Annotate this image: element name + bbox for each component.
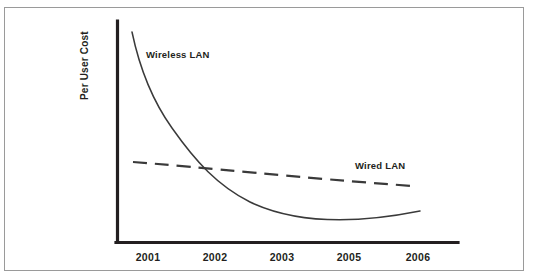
series-line-wireless-lan [132,32,420,220]
chart-figure: Per User Cost Wireless LAN Wired LAN 200… [0,0,534,279]
x-tick-label-2001: 2001 [128,251,168,263]
series-label-wireless-lan: Wireless LAN [146,49,210,60]
series-label-wired-lan: Wired LAN [355,160,405,171]
y-axis-label: Per User Cost [79,20,90,100]
x-tick-label-2006: 2006 [398,251,438,263]
x-tick-label-2005: 2005 [329,251,369,263]
x-tick-label-2003: 2003 [262,251,302,263]
x-tick-label-2002: 2002 [195,251,235,263]
